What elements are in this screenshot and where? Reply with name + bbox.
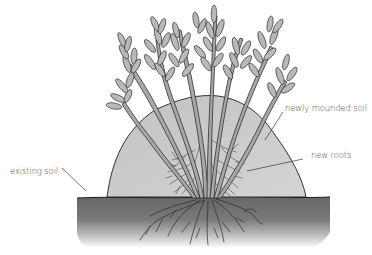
mounding-diagram: newly mounded soil new roots existing so…	[0, 0, 372, 255]
label-new-roots: new roots	[311, 150, 351, 160]
leader-existing-soil	[62, 168, 86, 191]
existing-soil	[77, 196, 330, 248]
diagram-illustration	[0, 0, 372, 255]
leaves	[106, 5, 299, 110]
label-newly-mounded-soil: newly mounded soil	[285, 103, 367, 113]
label-existing-soil: existing soil	[10, 166, 58, 176]
